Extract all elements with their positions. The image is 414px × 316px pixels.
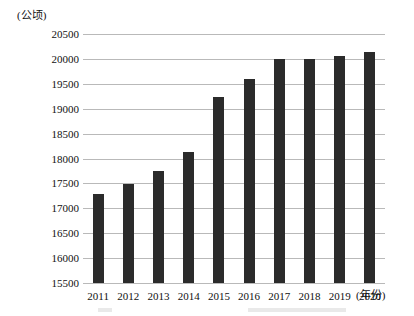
bar-2011 [93, 194, 104, 283]
page-artifact-smudge [70, 306, 360, 315]
bar-2017 [274, 59, 285, 283]
y-axis-tick-label: 17000 [33, 202, 79, 214]
bar-2019 [334, 56, 345, 283]
y-axis-tick-label: 19500 [33, 78, 79, 90]
y-axis-tick-label: 18500 [33, 128, 79, 140]
bar-2016 [244, 79, 255, 283]
bar-chart-figure: (公顷) 20500200001950019000185001800017500… [0, 0, 414, 316]
y-axis-tick-label: 20500 [33, 28, 79, 40]
bar-2015 [213, 97, 224, 283]
smudge-fragment-left [98, 308, 112, 312]
y-axis-tick-label: 19000 [33, 103, 79, 115]
y-axis-tick-label: 16500 [33, 227, 79, 239]
bar-2012 [123, 184, 134, 283]
bar-2020 [364, 52, 375, 283]
y-axis-tick-label: 15500 [33, 277, 79, 289]
gridline [83, 283, 385, 284]
x-axis-unit-label: (年份) [356, 286, 385, 302]
bar-2014 [183, 152, 194, 283]
bar-2018 [304, 59, 315, 283]
y-axis-tick-label: 20000 [33, 53, 79, 65]
x-axis-tick-labels: 2011201220132014201520162017201820192020 [83, 286, 385, 302]
y-axis-tick-label: 16000 [33, 252, 79, 264]
plot-area [83, 34, 385, 283]
smudge-fragment-right [248, 308, 346, 312]
y-axis-unit-label: (公顷) [17, 6, 46, 22]
bar-2013 [153, 171, 164, 283]
y-axis-tick-label: 17500 [33, 177, 79, 189]
y-axis-tick-label: 18000 [33, 153, 79, 165]
gridline [83, 34, 385, 35]
y-axis-tick-labels: 2050020000195001900018500180001750017000… [31, 34, 79, 283]
